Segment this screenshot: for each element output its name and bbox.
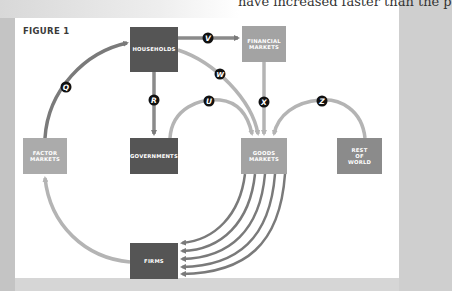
label-r-icon: R (149, 95, 160, 106)
node-financial-markets: FINANCIAL MARKETS (242, 26, 286, 62)
node-governments: GOVERNMENTS (130, 138, 178, 174)
label-z-icon: Z (317, 96, 328, 107)
node-factor-markets: FACTOR MARKETS (23, 138, 67, 174)
label-x-icon: X (259, 97, 270, 108)
flow-firms-to-factor-arrow (45, 178, 130, 262)
node-goods-markets: GOODS MARKETS (241, 138, 287, 174)
flow-q-arrow (45, 43, 127, 138)
svg-text:X: X (260, 98, 268, 107)
node-firms: FIRMS (130, 243, 178, 279)
node-rest-of-world: REST OF WORLD (337, 138, 382, 174)
label-w-icon: W (215, 69, 226, 80)
flow-goods-to-firms-1 (182, 174, 245, 243)
flow-goods-to-firms-4 (182, 174, 275, 267)
label-v-icon: V (203, 33, 214, 44)
svg-text:Q: Q (63, 83, 70, 92)
label-u-icon: U (204, 96, 215, 107)
svg-text:Z: Z (318, 97, 325, 106)
svg-text:U: U (206, 97, 212, 106)
label-q-icon: Q (61, 82, 72, 93)
svg-text:W: W (216, 71, 224, 79)
flow-w-arrow (178, 50, 258, 134)
node-households: HOUSEHOLDS (130, 27, 178, 72)
svg-text:R: R (151, 96, 157, 105)
flow-goods-to-firms-5 (182, 174, 285, 274)
